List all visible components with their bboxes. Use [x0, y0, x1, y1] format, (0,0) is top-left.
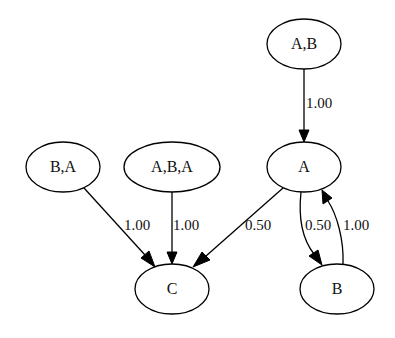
edge-weight-ba-c: 1.00 — [124, 217, 150, 234]
edge-weight-a-c: 0.50 — [245, 217, 271, 234]
node-label-ba: B,A — [50, 158, 76, 176]
edge-weight-a-b: 0.50 — [305, 217, 331, 234]
node-label-c: C — [167, 280, 178, 298]
edge-weight-b-a: 1.00 — [343, 217, 369, 234]
markov-transition-graph: A,B A B,A A,B,A C B 1.00 1.00 1.00 0.50 … — [0, 0, 395, 338]
node-label-b: B — [332, 280, 343, 298]
edge-weight-aba-c: 1.00 — [173, 217, 199, 234]
node-label-a: A — [298, 158, 310, 176]
edge-weight-ab-a: 1.00 — [306, 95, 332, 112]
node-label-ab: A,B — [291, 35, 317, 53]
node-label-aba: A,B,A — [151, 158, 193, 176]
